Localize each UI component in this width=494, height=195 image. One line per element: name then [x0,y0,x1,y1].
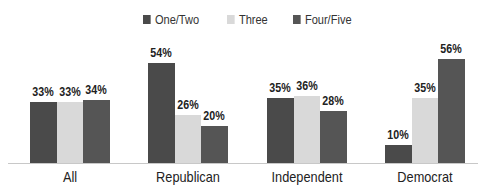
category-label: All [19,168,121,185]
bar [57,102,84,163]
category-label: Democrat [374,168,476,185]
bar [83,100,110,163]
bar [438,59,465,163]
bar [320,111,347,163]
plot-area: 33%33%34%All54%26%20%Republican35%36%28%… [0,0,494,195]
bar [385,145,412,164]
bar [412,98,439,163]
x-axis-line [8,163,478,164]
data-label: 54% [145,45,178,60]
category-label: Independent [256,168,358,185]
bar [148,63,175,163]
category-label: Republican [137,168,239,185]
data-label: 20% [198,108,231,123]
data-label: 35% [408,80,441,95]
data-label: 10% [382,127,415,142]
data-label: 34% [80,82,113,97]
data-label: 36% [290,78,323,93]
bar [267,98,294,163]
bar [201,126,228,163]
data-label: 56% [435,41,468,56]
bar [30,102,57,163]
data-label: 28% [317,93,350,108]
